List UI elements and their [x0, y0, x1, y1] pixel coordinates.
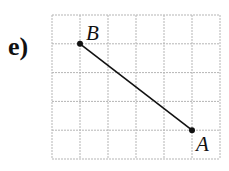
point-b	[77, 41, 83, 47]
point-a	[189, 127, 195, 133]
points: BA	[77, 21, 209, 156]
grid-diagram: BA	[0, 0, 229, 171]
point-label-b: B	[86, 21, 99, 45]
point-label-a: A	[194, 132, 209, 156]
